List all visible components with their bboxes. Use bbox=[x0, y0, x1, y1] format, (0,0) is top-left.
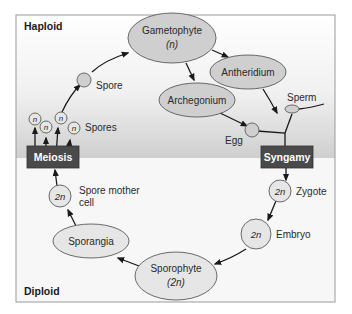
diploid-label: Diploid bbox=[24, 285, 60, 297]
svg-text:n: n bbox=[33, 115, 38, 124]
svg-text:Sporangia: Sporangia bbox=[68, 236, 114, 247]
svg-text:Meiosis: Meiosis bbox=[34, 151, 73, 163]
svg-text:2n: 2n bbox=[250, 229, 262, 240]
life-cycle-diagram: Haploid Diploid bbox=[0, 0, 352, 314]
haploid-label: Haploid bbox=[24, 20, 63, 32]
svg-text:Archegonium: Archegonium bbox=[168, 95, 227, 106]
svg-text:Spore: Spore bbox=[96, 80, 123, 91]
process-meiosis: Meiosis bbox=[27, 146, 79, 168]
svg-text:n: n bbox=[44, 123, 49, 132]
svg-text:Sporophyte: Sporophyte bbox=[150, 263, 202, 274]
svg-text:Zygote: Zygote bbox=[296, 186, 327, 197]
svg-text:(2n): (2n) bbox=[167, 277, 185, 288]
svg-text:cell: cell bbox=[79, 197, 94, 208]
svg-text:Sperm: Sperm bbox=[287, 92, 316, 103]
node-sporophyte: Sporophyte (2n) bbox=[135, 252, 217, 300]
svg-text:Egg: Egg bbox=[225, 135, 243, 146]
svg-text:Spores: Spores bbox=[85, 122, 117, 133]
node-antheridium: Antheridium bbox=[210, 55, 286, 89]
svg-text:Spore mother: Spore mother bbox=[79, 185, 140, 196]
svg-text:2n: 2n bbox=[274, 186, 286, 197]
svg-text:2n: 2n bbox=[54, 191, 66, 202]
node-gametophyte: Gametophyte (n) bbox=[128, 13, 216, 63]
svg-text:Syngamy: Syngamy bbox=[264, 151, 311, 163]
svg-text:n: n bbox=[59, 114, 64, 123]
svg-text:Embryo: Embryo bbox=[276, 229, 311, 240]
svg-text:Gametophyte: Gametophyte bbox=[142, 25, 202, 36]
svg-text:n: n bbox=[72, 124, 77, 133]
svg-text:Antheridium: Antheridium bbox=[221, 67, 274, 78]
process-syngamy: Syngamy bbox=[261, 146, 313, 168]
node-sporangia: Sporangia bbox=[53, 224, 129, 258]
node-archegonium: Archegonium bbox=[159, 83, 235, 117]
svg-text:(n): (n) bbox=[166, 39, 178, 50]
